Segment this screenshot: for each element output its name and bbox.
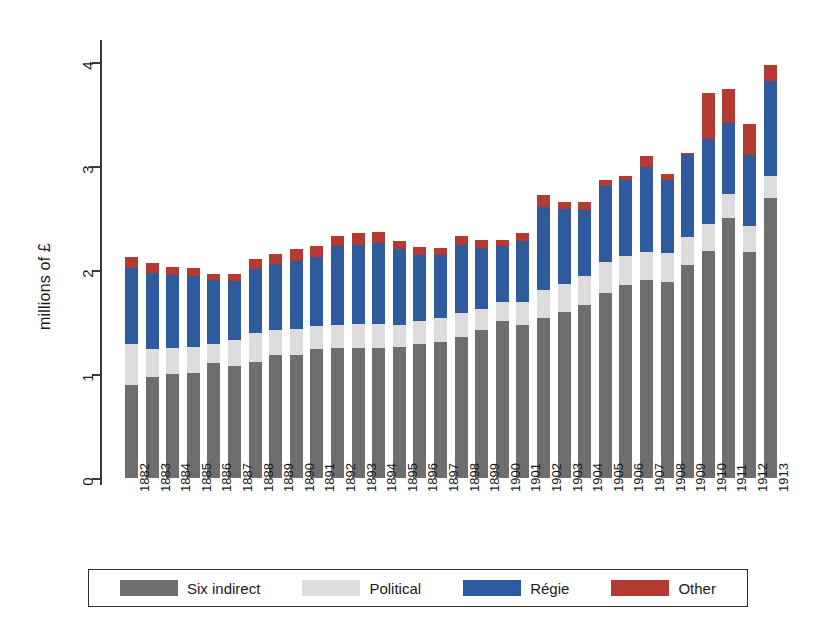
legend-item-other[interactable]: Other (611, 580, 716, 597)
bar-segment-six-indirect (599, 293, 612, 478)
chart-legend: Six indirectPoliticalRégieOther (88, 569, 748, 607)
bar-segment-other (434, 248, 447, 255)
bar-segment-political (619, 256, 632, 284)
bar-1905[interactable] (599, 180, 612, 478)
bar-1900[interactable] (496, 240, 509, 478)
bar-1906[interactable] (619, 176, 632, 478)
x-tick-label-1905: 1905 (611, 463, 626, 492)
bar-segment-régie (372, 243, 385, 324)
bar-1884[interactable] (166, 267, 179, 478)
bar-1902[interactable] (537, 195, 550, 478)
bar-segment-political (207, 344, 220, 363)
bar-segment-political (146, 349, 159, 377)
x-tick-label-1882: 1882 (137, 463, 152, 492)
legend-label: Political (369, 580, 421, 597)
bar-segment-six-indirect (228, 366, 241, 478)
bar-segment-other (764, 65, 777, 81)
bar-segment-régie (352, 245, 365, 324)
bar-1897[interactable] (434, 248, 447, 478)
bar-1893[interactable] (352, 233, 365, 478)
bar-segment-other (475, 240, 488, 248)
bar-1912[interactable] (743, 124, 756, 478)
bar-segment-six-indirect (661, 282, 674, 478)
bar-segment-régie (146, 273, 159, 349)
bar-1888[interactable] (249, 259, 262, 478)
bar-1896[interactable] (413, 247, 426, 478)
bar-1889[interactable] (269, 254, 282, 478)
legend-swatch (302, 580, 360, 596)
bar-1899[interactable] (475, 240, 488, 478)
bar-1909[interactable] (681, 153, 694, 479)
bar-1898[interactable] (455, 236, 468, 478)
bar-1911[interactable] (722, 89, 735, 478)
legend-label: Other (678, 580, 716, 597)
bar-segment-six-indirect (207, 363, 220, 478)
bar-segment-six-indirect (310, 349, 323, 478)
legend-item-political[interactable]: Political (302, 580, 421, 597)
x-tick-label-1883: 1883 (158, 463, 173, 492)
bar-segment-six-indirect (434, 342, 447, 478)
bar-segment-régie (496, 246, 509, 302)
bar-1892[interactable] (331, 236, 344, 478)
bar-segment-other (352, 233, 365, 245)
bar-segment-régie (516, 241, 529, 302)
bar-1886[interactable] (207, 274, 220, 478)
x-tick-label-1899: 1899 (487, 463, 502, 492)
bar-segment-other (722, 89, 735, 123)
bar-1908[interactable] (661, 174, 674, 478)
bar-segment-régie (413, 255, 426, 321)
bar-segment-six-indirect (722, 218, 735, 478)
bar-1883[interactable] (146, 263, 159, 478)
bar-1887[interactable] (228, 274, 241, 478)
bar-segment-political (722, 194, 735, 218)
bar-1891[interactable] (310, 246, 323, 478)
x-tick-label-1909: 1909 (693, 463, 708, 492)
bar-1901[interactable] (516, 233, 529, 478)
bar-segment-six-indirect (475, 330, 488, 478)
bar-1910[interactable] (702, 93, 715, 478)
bar-segment-other (331, 236, 344, 246)
bar-1885[interactable] (187, 268, 200, 478)
bar-segment-other (393, 241, 406, 249)
bar-segment-political (393, 325, 406, 347)
x-tick-label-1891: 1891 (322, 463, 337, 492)
bar-segment-political (743, 226, 756, 252)
bar-segment-régie (722, 123, 735, 194)
bar-segment-six-indirect (578, 305, 591, 478)
x-tick-label-1889: 1889 (281, 463, 296, 492)
x-tick-label-1886: 1886 (219, 463, 234, 492)
bar-segment-political (352, 324, 365, 348)
bar-segment-six-indirect (516, 325, 529, 478)
x-tick-label-1894: 1894 (384, 463, 399, 492)
x-tick-label-1910: 1910 (714, 463, 729, 492)
bar-1895[interactable] (393, 241, 406, 478)
bar-segment-régie (619, 180, 632, 257)
bar-segment-régie (310, 257, 323, 327)
bar-segment-régie (290, 261, 303, 330)
bar-1913[interactable] (764, 65, 777, 478)
bar-1903[interactable] (558, 202, 571, 478)
bar-segment-other (146, 263, 159, 273)
bar-segment-political (187, 347, 200, 373)
bar-segment-political (269, 330, 282, 355)
x-tick-label-1900: 1900 (508, 463, 523, 492)
bar-segment-six-indirect (331, 348, 344, 478)
x-tick-label-1913: 1913 (776, 463, 791, 492)
legend-item-six-indirect[interactable]: Six indirect (120, 580, 260, 597)
bar-segment-régie (475, 248, 488, 308)
bar-1882[interactable] (125, 257, 138, 478)
bar-segment-political (413, 321, 426, 344)
bar-segment-other (310, 246, 323, 256)
x-tick-label-1908: 1908 (673, 463, 688, 492)
legend-item-régie[interactable]: Régie (463, 580, 569, 597)
x-tick-label-1901: 1901 (528, 463, 543, 492)
bar-segment-régie (393, 249, 406, 325)
bar-1907[interactable] (640, 156, 653, 478)
x-tick-label-1902: 1902 (549, 463, 564, 492)
bar-segment-six-indirect (558, 312, 571, 478)
x-tick-label-1885: 1885 (199, 463, 214, 492)
bar-1904[interactable] (578, 202, 591, 478)
bar-1894[interactable] (372, 232, 385, 478)
bar-segment-six-indirect (743, 252, 756, 478)
bar-1890[interactable] (290, 249, 303, 478)
